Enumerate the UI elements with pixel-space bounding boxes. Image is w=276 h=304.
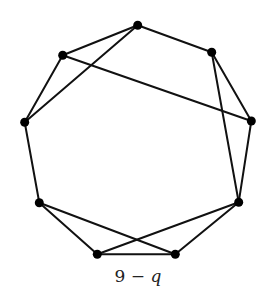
- caption-variable: q: [150, 266, 161, 286]
- edge-left-lower-left: [25, 122, 40, 202]
- graph-edges: [25, 25, 252, 254]
- edge-lower-left-bottom-right: [39, 203, 175, 255]
- edge-bottom-right-lower-right: [175, 202, 238, 254]
- vertex-left: [20, 118, 29, 127]
- vertex-bottom-right: [171, 250, 180, 259]
- vertex-top: [133, 21, 142, 30]
- graph-diagram: [0, 0, 276, 304]
- edge-top-left: [25, 25, 138, 122]
- vertex-right: [247, 117, 256, 126]
- caption-prefix: 9 −: [115, 266, 151, 286]
- edge-top-upper-right: [138, 25, 212, 52]
- vertex-lower-left: [35, 198, 44, 207]
- edge-bottom-left-lower-right: [97, 202, 238, 254]
- edge-lower-left-bottom-left: [39, 203, 97, 255]
- vertex-bottom-left: [93, 250, 102, 259]
- vertex-upper-right: [207, 48, 216, 57]
- edge-top-upper-left: [63, 25, 138, 55]
- graph-caption: 9 − q: [0, 266, 276, 286]
- vertex-lower-right: [234, 198, 243, 207]
- graph-vertices: [20, 21, 256, 259]
- edge-upper-left-left: [25, 55, 63, 122]
- edge-right-lower-right: [239, 121, 252, 202]
- vertex-upper-left: [58, 51, 67, 60]
